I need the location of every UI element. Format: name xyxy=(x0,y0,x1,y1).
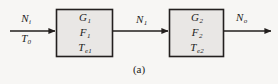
stage-1-gain-label: G1 xyxy=(57,11,113,26)
input-temperature-symbol: T xyxy=(21,32,27,44)
stage-2-gain-label: G2 xyxy=(170,11,224,26)
input-temperature-label: T0 xyxy=(11,32,41,46)
input-noise-power-symbol: N xyxy=(21,12,28,24)
input-noise-power-subscript: i xyxy=(29,18,31,26)
output-noise-power-subscript: o xyxy=(244,17,248,25)
stage-2-noise-temperature-label: Te2 xyxy=(170,41,224,56)
stage-1-noise-temperature-subscript: e1 xyxy=(85,47,92,55)
stage-1-noise-figure-subscript: 1 xyxy=(87,32,91,40)
intermediate-noise-power-label: N1 xyxy=(136,13,147,27)
output-noise-power-label: No xyxy=(236,11,247,25)
stage-1-noise-figure-label: F1 xyxy=(57,26,113,41)
stage-1-noise-temperature-label: Te1 xyxy=(57,41,113,56)
stage-2-noise-figure-label: F2 xyxy=(170,26,224,41)
stage-2-gain-symbol: G xyxy=(191,11,199,23)
intermediate-noise-power-symbol: N xyxy=(136,13,143,25)
stage-1-noise-temperature-symbol: T xyxy=(78,41,84,53)
stage-2-noise-temperature-subscript: e2 xyxy=(197,47,204,55)
stage-2-noise-figure-symbol: F xyxy=(192,26,199,38)
stage-2-parameters: G2 F2 Te2 xyxy=(170,11,224,56)
figure-caption: (a) xyxy=(0,63,278,75)
intermediate-noise-power-subscript: 1 xyxy=(144,19,148,27)
input-noise-power-label: Ni xyxy=(11,12,41,26)
stage-2-noise-temperature-symbol: T xyxy=(190,41,196,53)
stage-2-gain-subscript: 2 xyxy=(200,17,204,25)
block-diagram-figure: Ni T0 G1 F1 Te1 N1 G2 F2 Te2 No xyxy=(0,0,278,84)
stage-1-gain-symbol: G xyxy=(79,11,87,23)
input-temperature-subscript: 0 xyxy=(28,38,32,46)
stage-1-parameters: G1 F1 Te1 xyxy=(57,11,113,56)
stage-2-noise-figure-subscript: 2 xyxy=(199,32,203,40)
stage-1-gain-subscript: 1 xyxy=(88,17,92,25)
output-noise-power-symbol: N xyxy=(236,11,243,23)
stage-1-noise-figure-symbol: F xyxy=(80,26,87,38)
